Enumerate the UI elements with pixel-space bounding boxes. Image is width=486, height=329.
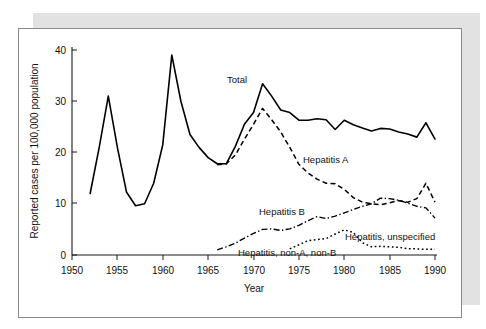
- series-label-hepatitis-a: Hepatitis A: [303, 154, 349, 165]
- axes-group: [72, 47, 437, 255]
- y-tick-label-10: 10: [55, 198, 67, 209]
- x-tick-label-1980: 1980: [333, 265, 356, 276]
- series-group: [90, 55, 435, 250]
- y-axis-title: Reported cases per 100,000 population: [29, 63, 40, 238]
- x-tick-label-1960: 1960: [152, 265, 175, 276]
- series-annotations: Total Hepatitis A Hepatitis B Hepatitis,…: [227, 74, 435, 258]
- y-axis-ticks: [72, 50, 77, 255]
- y-tick-label-30: 30: [55, 96, 67, 107]
- series-line-hepatitis-b: [217, 198, 435, 250]
- series-line-total: [90, 55, 435, 206]
- y-tick-label-20: 20: [55, 147, 67, 158]
- series-label-total: Total: [227, 74, 247, 85]
- x-axis-tick-labels: 1950 1955 1960 1965 1970 1975 1980 1985 …: [61, 265, 447, 276]
- y-tick-label-0: 0: [60, 250, 66, 261]
- x-tick-label-1965: 1965: [197, 265, 220, 276]
- x-tick-label-1970: 1970: [243, 265, 266, 276]
- y-axis-tick-labels: 40 30 20 10 0: [55, 45, 67, 261]
- hepatitis-incidence-line-chart: 40 30 20 10 0 1950 1955 1960 1965 1970 1…: [0, 0, 486, 329]
- x-tick-label-1985: 1985: [379, 265, 402, 276]
- series-label-hepatitis-non-a-non-b: Hepatitis, non-A, non-B: [238, 247, 336, 258]
- figure-page: 40 30 20 10 0 1950 1955 1960 1965 1970 1…: [0, 0, 486, 329]
- x-axis-title: Year: [244, 283, 265, 294]
- x-tick-label-1975: 1975: [288, 265, 311, 276]
- x-tick-label-1955: 1955: [106, 265, 129, 276]
- y-tick-label-40: 40: [55, 45, 67, 56]
- x-tick-label-1950: 1950: [61, 265, 84, 276]
- x-tick-label-1990: 1990: [424, 265, 447, 276]
- series-label-hepatitis-b: Hepatitis B: [259, 206, 305, 217]
- series-label-hepatitis-unspecified: Hepatitis, unspecified: [345, 231, 435, 242]
